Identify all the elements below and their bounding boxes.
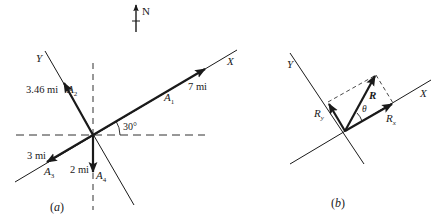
y-axis-label-a: Y	[36, 52, 44, 64]
parallelogram-dash-right	[376, 75, 393, 103]
angle-label-a: 30°	[123, 121, 137, 132]
a1-magnitude: 7 mi	[188, 81, 207, 92]
resultant-label: R	[368, 89, 376, 101]
north-label: N	[142, 5, 150, 17]
a4-label: A4	[95, 169, 107, 184]
vector-a3	[47, 135, 93, 162]
a1-label: A1	[163, 91, 175, 106]
rx-label: Rx	[385, 112, 397, 127]
a3-magnitude: 3 mi	[27, 150, 46, 161]
figure-b	[290, 53, 431, 164]
x-axis-label-a: X	[226, 55, 235, 67]
y-axis-line-b	[290, 53, 364, 164]
vector-diagram: N Y X 30° 7 mi A1 3.46 mi A2 3 mi A3 2 m…	[0, 0, 445, 220]
vector-ry	[329, 104, 345, 131]
north-arrow-icon	[132, 5, 140, 32]
vector-a1	[93, 69, 205, 135]
y-axis-label-b: Y	[287, 58, 295, 70]
theta-arc	[357, 113, 362, 121]
a3-label: A3	[43, 165, 55, 180]
caption-a: (a)	[50, 200, 64, 214]
a2-magnitude: 3.46 mi	[26, 84, 58, 95]
caption-b: (b)	[331, 196, 345, 210]
x-axis-label-b: X	[419, 87, 428, 99]
theta-label: θ	[362, 104, 367, 114]
a4-magnitude: 2 mi	[70, 164, 89, 175]
angle-arc	[116, 121, 120, 135]
ry-label: Ry	[313, 107, 325, 122]
